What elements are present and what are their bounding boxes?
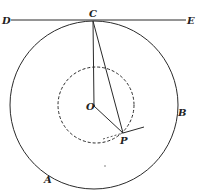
label-P: P	[119, 135, 128, 146]
label-O: O	[86, 101, 95, 112]
line-CO	[93, 21, 94, 106]
label-C: C	[89, 8, 97, 19]
line-CP	[93, 21, 123, 133]
stray-dot	[104, 165, 105, 166]
label-E: E	[186, 15, 195, 26]
geometry-diagram: D E C O P A B	[0, 0, 198, 191]
line-OP	[94, 106, 123, 133]
tangent-at-P	[123, 127, 144, 133]
label-B: B	[177, 107, 186, 118]
label-D: D	[1, 15, 11, 26]
diagram-canvas: D E C O P A B	[0, 0, 198, 191]
label-A: A	[43, 174, 52, 185]
